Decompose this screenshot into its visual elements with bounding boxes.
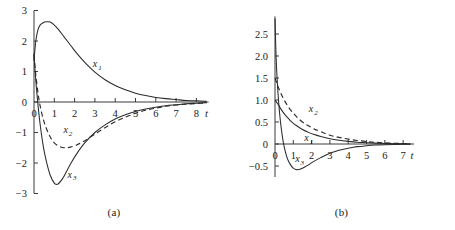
curve-label-base: x: [66, 169, 72, 180]
panel-b: 01234567−0.500.51.01.52.02.5tx1x2x3 (b): [228, 0, 455, 230]
y-tick-label: −2: [16, 158, 27, 169]
x-axis-label: t: [411, 150, 415, 161]
y-tick-label: 0.5: [255, 117, 268, 128]
curve-label-x2: x2: [62, 124, 72, 138]
figure-two-panel-plot: 012345678−3−2−10123tx1x2x3 (a) 01234567−…: [0, 0, 455, 230]
x-tick-label: 5: [364, 150, 369, 161]
y-tick-label: 1.5: [255, 73, 268, 84]
x-tick-label: 0: [31, 108, 36, 119]
x-tick-label: 7: [400, 150, 405, 161]
plot-a-canvas: 012345678−3−2−10123tx1x2x3: [0, 0, 228, 230]
y-tick-label: 0: [263, 139, 268, 150]
x-tick-label: 3: [92, 108, 97, 119]
panel-a: 012345678−3−2−10123tx1x2x3 (a): [0, 0, 228, 230]
y-tick-label: 2: [22, 36, 27, 47]
curve-label-subscript: 3: [300, 159, 305, 167]
y-tick-label: −0.5: [249, 161, 268, 172]
x-tick-label: 2: [72, 108, 77, 119]
curve-label-subscript: 2: [69, 130, 73, 138]
curve-x2: [34, 55, 207, 148]
curve-label-x1: x1: [92, 58, 102, 72]
curve-label-subscript: 2: [314, 109, 318, 117]
panel-b-caption: (b): [228, 206, 455, 218]
curve-x1: [275, 100, 410, 144]
curve-x3: [275, 19, 410, 170]
curve-label-base: x: [308, 103, 314, 114]
x-tick-label: 8: [194, 108, 199, 119]
curve-label-subscript: 1: [310, 138, 314, 146]
y-tick-label: 2.5: [255, 29, 268, 40]
x-tick-label: 0: [272, 150, 277, 161]
curve-label-subscript: 1: [98, 64, 102, 72]
y-tick-label: 1.0: [255, 95, 268, 106]
curve-label-base: x: [62, 124, 68, 135]
curve-label-base: x: [92, 58, 98, 69]
curve-label-subscript: 3: [72, 174, 77, 182]
curve-label-x3: x3: [294, 153, 304, 167]
y-tick-label: −3: [16, 188, 27, 199]
x-tick-label: 6: [153, 108, 158, 119]
x-tick-label: 7: [173, 108, 178, 119]
curve-x1: [34, 22, 207, 102]
y-tick-label: 2.0: [255, 51, 268, 62]
x-tick-label: 6: [382, 150, 387, 161]
x-tick-label: 1: [52, 108, 57, 119]
curve-label-base: x: [294, 153, 300, 164]
curve-x2: [275, 78, 410, 144]
y-tick-label: −1: [16, 127, 27, 138]
y-tick-label: 1: [22, 66, 27, 77]
curve-label-x3: x3: [66, 169, 76, 183]
panel-a-caption: (a): [0, 206, 228, 218]
x-tick-label: 3: [327, 150, 332, 161]
curve-label-x2: x2: [308, 103, 318, 117]
x-axis-label: t: [205, 108, 209, 119]
y-tick-label: 0: [22, 97, 27, 108]
x-tick-label: 2: [309, 150, 314, 161]
plot-b-canvas: 01234567−0.500.51.01.52.02.5tx1x2x3: [228, 0, 455, 230]
curve-label-base: x: [303, 132, 309, 143]
y-tick-label: 3: [22, 5, 27, 16]
x-tick-label: 4: [346, 150, 352, 161]
